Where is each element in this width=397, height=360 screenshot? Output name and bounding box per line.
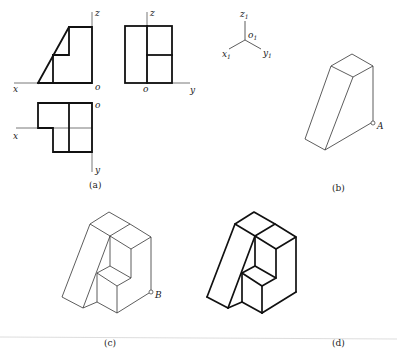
caption-a: (a): [89, 180, 101, 190]
point-b-label: B: [154, 290, 162, 300]
side-o-label: o: [143, 84, 149, 94]
iso-axes: z1 o1 x1 y1: [222, 9, 272, 60]
side-view: z o y: [125, 8, 196, 95]
panel-c: B (c): [62, 212, 162, 348]
cutout-block-thin: B: [62, 212, 162, 313]
point-b-marker: [149, 290, 153, 294]
front-z-label: z: [94, 8, 100, 18]
technical-drawing: z x o z o y o x y (a): [0, 0, 397, 360]
top-o-label: o: [95, 100, 101, 110]
panel-d: (d): [207, 212, 345, 348]
top-x-label: x: [13, 131, 18, 141]
panel-b: z1 o1 x1 y1 A (b): [222, 9, 384, 193]
front-o-label: o: [95, 82, 101, 92]
cutout-block-bold: [207, 212, 296, 313]
caption-d: (d): [332, 338, 345, 348]
caption-b: (b): [332, 183, 345, 193]
front-x-label: x: [13, 84, 18, 94]
iso-y-label: y1: [262, 48, 272, 59]
wedge-block: A: [305, 54, 384, 150]
front-view: z x o: [13, 8, 101, 94]
top-view: o x y: [13, 100, 101, 175]
point-a-label: A: [376, 121, 384, 131]
side-z-label: z: [149, 8, 155, 18]
point-a-marker: [371, 121, 375, 125]
caption-c: (c): [104, 338, 116, 348]
iso-z-label: z1: [239, 9, 249, 20]
panel-a: z x o z o y o x y (a): [13, 8, 196, 190]
iso-o-label: o1: [248, 30, 257, 41]
iso-x-label: x1: [222, 49, 231, 60]
top-y-label: y: [94, 165, 101, 175]
side-y-label: y: [189, 85, 196, 95]
